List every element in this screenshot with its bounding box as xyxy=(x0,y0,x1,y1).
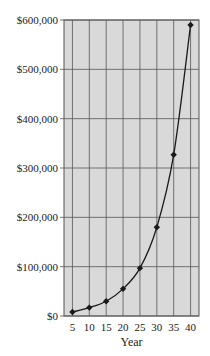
x-tick-label: 5 xyxy=(70,321,76,333)
x-axis-label: Year xyxy=(120,335,142,349)
y-tick-label: $400,000 xyxy=(17,113,59,125)
y-tick-label: $200,000 xyxy=(17,211,59,223)
x-axis-ticks: 510152025303540 xyxy=(70,321,197,333)
y-tick-label: $100,000 xyxy=(17,261,59,273)
x-tick-label: 10 xyxy=(84,321,96,333)
x-tick-label: 15 xyxy=(101,321,113,333)
x-tick-label: 35 xyxy=(168,321,180,333)
y-tick-label: $600,000 xyxy=(17,14,59,26)
y-axis-ticks: $0$100,000$200,000$300,000$400,000$500,0… xyxy=(17,14,59,322)
x-tick-label: 40 xyxy=(185,321,197,333)
x-tick-label: 25 xyxy=(134,321,146,333)
chart: $0$100,000$200,000$300,000$400,000$500,0… xyxy=(0,0,210,356)
y-tick-label: $0 xyxy=(47,310,59,322)
x-tick-label: 30 xyxy=(151,321,163,333)
y-tick-label: $500,000 xyxy=(17,63,59,75)
y-tick-label: $300,000 xyxy=(17,162,59,174)
x-tick-label: 20 xyxy=(118,321,130,333)
